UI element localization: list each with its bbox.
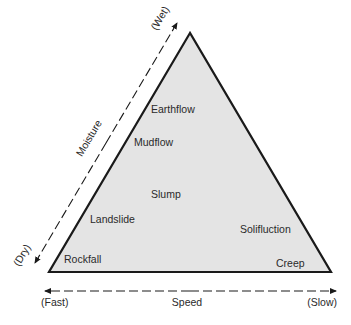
region-solifluction: Solifluction (240, 223, 291, 235)
speed-fast-label: (Fast) (41, 296, 68, 308)
speed-axis-title: Speed (172, 296, 203, 308)
classification-triangle (49, 33, 331, 272)
mass-movement-diagram: Earthflow Mudflow Slump Landslide Solifl… (0, 0, 351, 325)
speed-slow-label: (Slow) (307, 296, 337, 308)
moisture-wet-label: (Wet) (148, 4, 171, 32)
region-mudflow: Mudflow (134, 136, 174, 148)
region-creep: Creep (276, 257, 305, 269)
moisture-axis-title: Moisture (73, 117, 104, 158)
region-earthflow: Earthflow (151, 103, 195, 115)
moisture-dry-label: (Dry) (10, 242, 32, 268)
region-rockfall: Rockfall (64, 253, 101, 265)
region-slump: Slump (151, 188, 181, 200)
region-landslide: Landslide (90, 213, 135, 225)
